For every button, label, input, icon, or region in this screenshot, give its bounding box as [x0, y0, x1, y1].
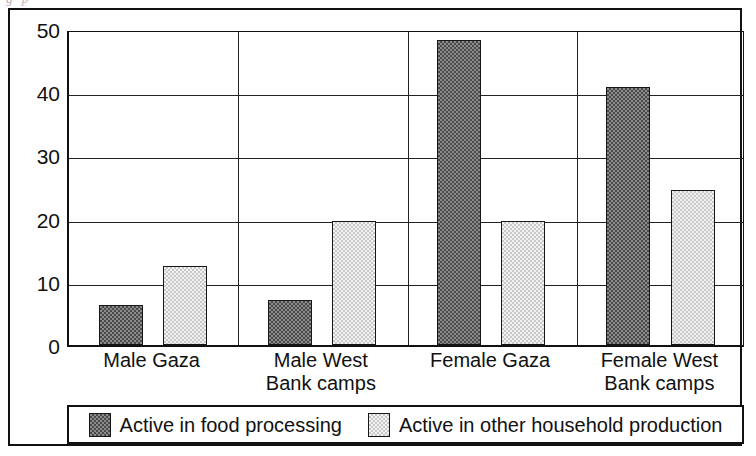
- bar-series1-cat1: [99, 305, 143, 345]
- y-axis-tick-labels: 01020304050: [10, 10, 60, 448]
- y-tick-label-20: 20: [37, 210, 60, 231]
- y-tick-label-0: 0: [48, 336, 60, 357]
- legend-entry-1: Active in food processing: [89, 413, 342, 437]
- legend-swatch-dark: [89, 413, 111, 437]
- legend-swatch-light: [368, 413, 390, 437]
- bar-series2-cat1: [163, 266, 207, 345]
- plot-inner: [69, 32, 743, 345]
- group-separator-3: [577, 32, 578, 345]
- legend-entry-2: Active in other household production: [368, 413, 723, 437]
- figure-frame: 01020304050 Male GazaMale West Bank camp…: [8, 8, 742, 446]
- x-category-label-1: Male Gaza: [67, 349, 236, 372]
- bar-series1-cat2: [268, 300, 312, 346]
- plot-area: [67, 31, 744, 347]
- chart-legend: Active in food processingActive in other…: [67, 405, 744, 444]
- legend-label-1: Active in food processing: [120, 414, 342, 436]
- group-separator-1: [238, 32, 239, 345]
- y-tick-label-40: 40: [37, 83, 60, 104]
- x-category-label-2: Male West Bank camps: [236, 349, 405, 395]
- legend-label-2: Active in other household production: [399, 414, 723, 436]
- x-category-label-3: Female Gaza: [406, 349, 575, 372]
- scanned-caption-remnant: g p: [6, 0, 31, 7]
- y-tick-label-30: 30: [37, 146, 60, 167]
- y-tick-label-50: 50: [37, 20, 60, 41]
- x-category-label-4: Female West Bank camps: [575, 349, 744, 395]
- bar-series1-cat4: [606, 87, 650, 345]
- y-tick-label-10: 10: [37, 273, 60, 294]
- x-axis-category-labels: Male GazaMale West Bank campsFemale Gaza…: [67, 349, 744, 405]
- bar-series1-cat3: [437, 40, 481, 345]
- bar-series2-cat4: [671, 190, 715, 345]
- bar-series2-cat2: [332, 221, 376, 346]
- group-separator-2: [408, 32, 409, 345]
- bar-series2-cat3: [501, 221, 545, 346]
